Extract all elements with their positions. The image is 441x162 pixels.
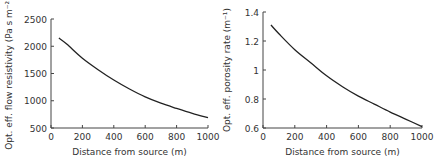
x-tick-label: 200 xyxy=(286,132,303,142)
x-tick-label: 400 xyxy=(318,132,335,142)
y-tick-label: 1 xyxy=(253,66,259,76)
figure: 500100015002000250002004006008001000Dist… xyxy=(0,0,441,162)
y-tick-label: 500 xyxy=(30,124,47,134)
x-tick-label: 200 xyxy=(74,132,91,142)
porosity-rate-chart: 0.60.811.21.402004006008001000Distance f… xyxy=(220,0,441,162)
y-tick-label: 1000 xyxy=(24,96,47,106)
x-axis-label: Distance from source (m) xyxy=(285,147,400,157)
y-tick-label: 2500 xyxy=(24,15,47,25)
x-tick-label: 800 xyxy=(382,132,399,142)
data-line xyxy=(59,38,208,118)
y-tick-label: 1.4 xyxy=(245,8,260,18)
y-tick-label: 1500 xyxy=(24,69,47,79)
x-tick-label: 600 xyxy=(350,132,367,142)
x-tick-label: 600 xyxy=(137,132,154,142)
y-tick-label: 2000 xyxy=(24,42,47,52)
x-tick-label: 0 xyxy=(48,132,54,142)
flow-resistivity-chart: 500100015002000250002004006008001000Dist… xyxy=(0,0,220,162)
y-tick-label: 0.8 xyxy=(245,95,260,105)
x-tick-label: 1000 xyxy=(411,132,434,142)
data-line xyxy=(271,25,422,127)
y-axis-label: Opt. eff. porosity rate (m⁻¹) xyxy=(222,8,232,132)
y-axis-label: Opt. eff. flow resistivity (Pa s m⁻²) xyxy=(4,0,14,150)
x-axis-label: Distance from source (m) xyxy=(72,147,187,157)
y-tick-label: 1.2 xyxy=(245,37,259,47)
y-tick-label: 0.6 xyxy=(245,124,260,134)
x-tick-label: 0 xyxy=(260,132,266,142)
x-tick-label: 1000 xyxy=(197,132,220,142)
x-tick-label: 800 xyxy=(168,132,185,142)
x-tick-label: 400 xyxy=(105,132,122,142)
